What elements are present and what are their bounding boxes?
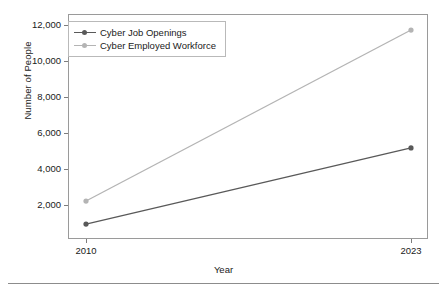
y-axis-tick-label: 6,000: [37, 127, 61, 138]
y-axis-tick-mark: [64, 97, 68, 98]
chart-legend: Cyber Job Openings Cyber Employed Workfo…: [68, 21, 226, 57]
y-axis-tick-label: 10,000: [32, 55, 61, 66]
y-axis-tick-label: 8,000: [37, 91, 61, 102]
legend-item-label: Cyber Employed Workforce: [100, 40, 216, 51]
y-axis-tick-mark: [64, 169, 68, 170]
y-axis-tick-mark: [64, 205, 68, 206]
x-axis-tick-mark: [411, 239, 412, 243]
legend-marker-icon: [74, 27, 96, 37]
legend-item[interactable]: Cyber Job Openings: [74, 26, 216, 38]
x-axis-tick-label: 2010: [75, 245, 96, 256]
legend-item-label: Cyber Job Openings: [100, 27, 187, 38]
y-axis-tick-label: 4,000: [37, 163, 61, 174]
x-axis-label: Year: [0, 264, 447, 275]
y-axis-tick-label: 2,000: [37, 199, 61, 210]
legend-marker-icon: [74, 40, 96, 50]
y-axis-tick-label: 12,000: [32, 19, 61, 30]
x-axis-tick-label: 2023: [400, 245, 421, 256]
legend-item[interactable]: Cyber Employed Workforce: [74, 39, 216, 51]
line-chart-figure: Number of People 12,000 10,000 8,000 6,0…: [0, 0, 447, 290]
y-axis-label: Number of People: [22, 16, 33, 146]
y-axis-tick-mark: [64, 133, 68, 134]
footer-divider: [8, 283, 439, 284]
x-axis-tick-mark: [86, 239, 87, 243]
y-axis-tick-mark: [64, 61, 68, 62]
